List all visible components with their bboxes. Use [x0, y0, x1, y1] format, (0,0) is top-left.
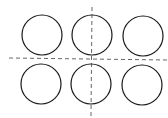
circle-2 [72, 15, 112, 55]
circle-1 [22, 15, 62, 55]
circle-6 [122, 65, 162, 105]
vertical-axis [91, 7, 92, 116]
circle-3 [123, 16, 163, 56]
horizontal-axis [9, 58, 168, 60]
circle-4 [21, 64, 61, 104]
symmetry-diagram [0, 0, 168, 118]
diagram-canvas [0, 0, 168, 118]
